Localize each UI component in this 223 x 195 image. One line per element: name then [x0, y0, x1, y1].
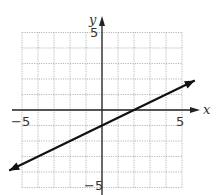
coordinate-plane: x y −5 5 5 −5 [0, 0, 223, 195]
y-axis [99, 16, 105, 195]
y-min-tick-label: −5 [84, 178, 103, 193]
x-axis [12, 107, 200, 113]
x-axis-label: x [203, 102, 211, 117]
y-max-tick-label: 5 [90, 25, 98, 40]
x-min-tick-label: −5 [11, 114, 30, 129]
x-max-tick-label: 5 [176, 114, 184, 129]
